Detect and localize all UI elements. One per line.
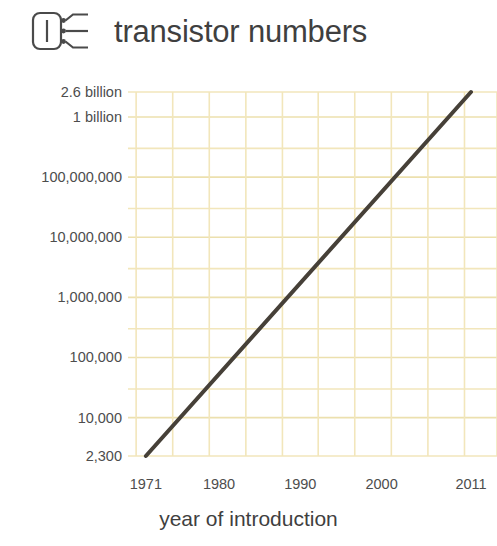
y-tick-label: 2.6 billion xyxy=(0,85,122,100)
x-axis-title: year of introduction xyxy=(0,508,497,529)
y-tick-label: 100,000,000 xyxy=(0,170,122,185)
x-tick-label: 1990 xyxy=(284,477,316,492)
y-tick-label: 1,000,000 xyxy=(0,290,122,305)
y-tick-label: 10,000 xyxy=(0,410,122,425)
page-title: transistor numbers xyxy=(114,16,367,47)
series-transistor-count xyxy=(146,92,471,456)
y-tick-label: 2,300 xyxy=(0,449,122,464)
x-tick-label: 1980 xyxy=(203,477,235,492)
y-tick-label: 10,000,000 xyxy=(0,230,122,245)
y-tick-label: 1 billion xyxy=(0,110,122,125)
data-series-line xyxy=(128,92,497,456)
y-axis-tick-labels: 2.6 billion1 billion100,000,00010,000,00… xyxy=(0,0,122,546)
x-tick-label: 2000 xyxy=(365,477,397,492)
y-tick-label: 100,000 xyxy=(0,350,122,365)
x-axis-tick-labels: 19711980199020002011 xyxy=(0,477,497,499)
x-tick-label: 2011 xyxy=(455,477,486,492)
x-tick-label: 1971 xyxy=(130,477,162,492)
plot-area xyxy=(128,92,497,456)
chart-figure: transistor numbers 2.6 billion1 billion1… xyxy=(0,0,497,546)
